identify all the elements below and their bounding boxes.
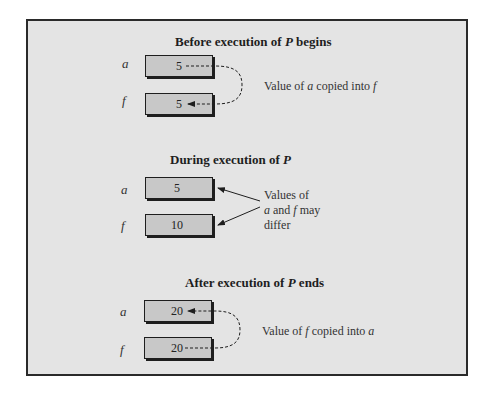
differ-arrow-a [218,188,260,201]
arrows-layer [0,0,494,395]
differ-arrow-f [218,207,260,225]
copy-in-arrow [186,66,242,104]
copy-out-arrow [185,311,240,348]
